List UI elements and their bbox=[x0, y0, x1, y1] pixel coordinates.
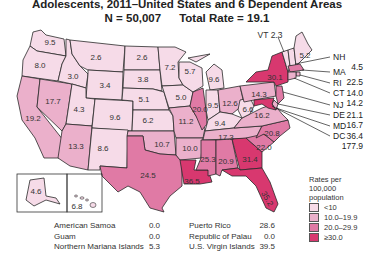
svg-text:2.6: 2.6 bbox=[90, 53, 102, 62]
svg-text:30.1: 30.1 bbox=[267, 73, 283, 82]
svg-text:7.2: 7.2 bbox=[164, 63, 176, 72]
svg-text:2.6: 2.6 bbox=[136, 53, 148, 62]
vt-callout-label: VT 2.3 bbox=[258, 30, 283, 40]
svg-text:3.0: 3.0 bbox=[67, 72, 79, 81]
svg-text:17.7: 17.7 bbox=[45, 97, 61, 106]
svg-text:20.9: 20.9 bbox=[218, 157, 234, 166]
state-RI[interactable] bbox=[296, 72, 300, 76]
svg-text:5.1: 5.1 bbox=[138, 95, 150, 104]
svg-text:14.3: 14.3 bbox=[251, 90, 267, 99]
svg-text:9.6: 9.6 bbox=[208, 75, 220, 84]
svg-text:9.5: 9.5 bbox=[207, 101, 219, 110]
svg-text:5.2: 5.2 bbox=[299, 51, 311, 60]
legend-title-1: Rates per bbox=[309, 175, 357, 184]
svg-text:8.0: 8.0 bbox=[34, 61, 46, 70]
territory-row: Republic of Palau0.0 bbox=[189, 232, 275, 243]
legend-item-ge30: ≥30.0 bbox=[309, 233, 357, 242]
svg-text:12.6: 12.6 bbox=[222, 99, 238, 108]
svg-text:6.6: 6.6 bbox=[242, 105, 254, 114]
svg-text:25.3: 25.3 bbox=[200, 155, 216, 164]
state-NJ[interactable] bbox=[276, 86, 284, 104]
legend-swatch bbox=[309, 233, 319, 242]
svg-text:11.2: 11.2 bbox=[179, 117, 195, 126]
svg-text:36.5: 36.5 bbox=[184, 177, 200, 186]
svg-text:13.3: 13.3 bbox=[68, 142, 84, 151]
territories-left: American Samoa0.0 Guam0.0 Northern Maria… bbox=[54, 221, 160, 253]
legend-swatch bbox=[309, 223, 319, 232]
svg-text:22.0: 22.0 bbox=[256, 143, 272, 152]
svg-text:4.6: 4.6 bbox=[30, 187, 42, 196]
legend-swatch bbox=[309, 203, 319, 212]
svg-text:4.3: 4.3 bbox=[73, 105, 85, 114]
svg-text:10.0: 10.0 bbox=[182, 144, 198, 153]
legend-item-20-29: 20.0–29.9 bbox=[309, 223, 357, 232]
svg-text:17.3: 17.3 bbox=[218, 133, 234, 142]
territory-row: Guam0.0 bbox=[54, 232, 160, 243]
svg-text:19.2: 19.2 bbox=[25, 114, 41, 123]
legend: Rates per 100,000 population <10 10.0–19… bbox=[309, 175, 357, 242]
svg-text:5.0: 5.0 bbox=[175, 93, 187, 102]
svg-text:20.0: 20.0 bbox=[192, 105, 208, 114]
svg-text:10.7: 10.7 bbox=[154, 140, 170, 149]
state-CT[interactable] bbox=[288, 72, 296, 80]
svg-text:31.4: 31.4 bbox=[242, 155, 258, 164]
territories-right: Puerto Rico28.6 Republic of Palau0.0 U.S… bbox=[189, 221, 275, 253]
callout-dc: DC177.9 bbox=[333, 131, 374, 151]
legend-title-2: 100,000 bbox=[309, 184, 357, 193]
svg-text:24.5: 24.5 bbox=[140, 171, 156, 180]
territory-row: U.S. Virgin Islands39.5 bbox=[189, 242, 275, 253]
territory-row: Puerto Rico28.6 bbox=[189, 221, 275, 232]
svg-text:20.8: 20.8 bbox=[264, 129, 280, 138]
svg-text:16.2: 16.2 bbox=[254, 111, 270, 120]
state-MA[interactable] bbox=[288, 64, 304, 72]
svg-text:6.8: 6.8 bbox=[71, 202, 83, 211]
svg-text:6.2: 6.2 bbox=[142, 116, 154, 125]
legend-item-10-19: 10.0–19.9 bbox=[309, 213, 357, 222]
territory-row: Northern Mariana Islands5.3 bbox=[54, 242, 160, 253]
svg-text:3.8: 3.8 bbox=[137, 75, 149, 84]
legend-title-3: population bbox=[309, 193, 357, 202]
svg-text:5.7: 5.7 bbox=[184, 67, 196, 76]
legend-swatch bbox=[309, 213, 319, 222]
svg-text:9.4: 9.4 bbox=[214, 119, 226, 128]
legend-item-lt10: <10 bbox=[309, 203, 357, 212]
territory-row: American Samoa0.0 bbox=[54, 221, 160, 232]
svg-text:9.5: 9.5 bbox=[44, 38, 56, 47]
svg-text:8.6: 8.6 bbox=[97, 144, 109, 153]
svg-text:9.6: 9.6 bbox=[109, 113, 121, 122]
svg-text:3.4: 3.4 bbox=[99, 81, 111, 90]
